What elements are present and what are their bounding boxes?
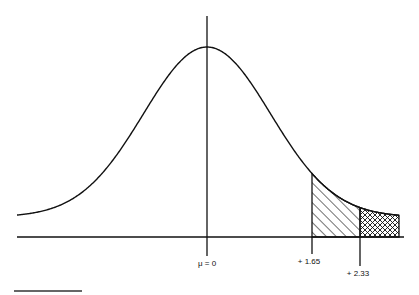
z-1-65-label: + 1.65 <box>298 257 321 266</box>
z-2-33-label: + 2.33 <box>347 269 370 278</box>
normal-curve <box>17 47 399 215</box>
mean-label: μ = 0 <box>198 259 217 268</box>
normal-distribution-chart: μ = 0 + 1.65 + 2.33 <box>0 0 419 295</box>
